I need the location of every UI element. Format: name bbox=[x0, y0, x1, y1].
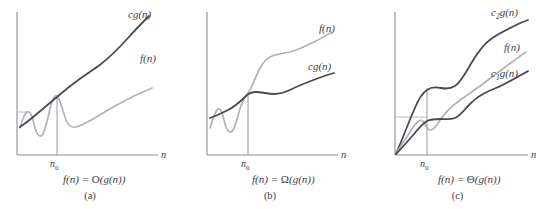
panel-b-label-cg: cg(n) bbox=[308, 61, 331, 72]
panel-c-label-c2g: c2g(n) bbox=[491, 7, 518, 21]
panel-c-formula-lhs: f(n) = bbox=[438, 173, 467, 185]
panel-a-curve-cg bbox=[20, 16, 149, 127]
panel-a-x-axis-label: n bbox=[161, 149, 166, 160]
panel-b-curve-cg bbox=[210, 73, 334, 118]
panel-c-formula-rhs: (g(n)) bbox=[475, 173, 501, 185]
panel-b-formula: f(n) = Ω(g(n)) bbox=[252, 173, 315, 185]
panel-c-formula-notation: Θ bbox=[467, 173, 475, 185]
panel-c-sublabel: (c) bbox=[360, 190, 555, 201]
panel-b-formula-notation: Ω bbox=[281, 173, 289, 185]
panel-b-n0-tick: n0 bbox=[241, 158, 250, 172]
panel-b-curve-f bbox=[210, 32, 332, 132]
panel-a-formula-lhs: f(n) = bbox=[63, 173, 92, 185]
panel-c-n0-tick: n0 bbox=[420, 158, 429, 172]
panel-b-x-axis-label: n bbox=[341, 149, 346, 160]
panel-b-big-omega: f(n) cg(n) n n0 f(n) = Ω(g(n)) (b) bbox=[180, 0, 360, 209]
panel-a-big-o: cg(n) f(n) n n0 f(n) = O(g(n)) (a) bbox=[0, 0, 180, 209]
panel-b-label-f: f(n) bbox=[319, 23, 335, 34]
panel-b-formula-lhs: f(n) = bbox=[252, 173, 281, 185]
panel-c-label-c2g-post: g(n) bbox=[500, 6, 518, 18]
panel-c-formula: f(n) = Θ(g(n)) bbox=[438, 173, 500, 185]
panel-c-label-f: f(n) bbox=[504, 42, 520, 53]
panel-a-label-cg: cg(n) bbox=[128, 9, 151, 20]
panel-b-n0-tick-sub: 0 bbox=[246, 164, 250, 172]
panel-a-label-f: f(n) bbox=[140, 53, 156, 64]
panel-b-sublabel: (b) bbox=[180, 190, 360, 201]
panel-a-formula: f(n) = O(g(n)) bbox=[63, 173, 125, 185]
panel-c-x-axis-label: n bbox=[531, 149, 536, 160]
clipped-caption-strip bbox=[0, 202, 555, 209]
panel-a-n0-tick-sub: 0 bbox=[55, 164, 59, 172]
panel-c-big-theta: c2g(n) f(n) c1g(n) n n0 f(n) = Θ(g(n)) (… bbox=[360, 0, 555, 209]
panel-b-formula-rhs: (g(n)) bbox=[289, 173, 315, 185]
panel-a-n0-tick: n0 bbox=[50, 158, 59, 172]
panel-c-label-c1g-post: g(n) bbox=[500, 67, 518, 79]
panel-c-curve-c1g bbox=[396, 71, 528, 154]
panel-c-n0-tick-sub: 0 bbox=[425, 164, 429, 172]
panel-a-formula-notation: O bbox=[92, 173, 100, 185]
panel-a-formula-rhs: (g(n)) bbox=[100, 173, 126, 185]
panel-c-label-c1g: c1g(n) bbox=[491, 68, 518, 82]
asymptotic-notation-figure: cg(n) f(n) n n0 f(n) = O(g(n)) (a) f(n) … bbox=[0, 0, 555, 209]
panel-a-sublabel: (a) bbox=[0, 190, 180, 201]
